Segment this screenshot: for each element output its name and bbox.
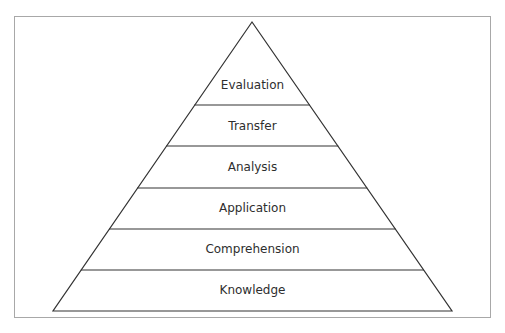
layer-label-evaluation: Evaluation bbox=[0, 78, 505, 92]
layer-label-application: Application bbox=[0, 201, 505, 215]
layer-label-transfer: Transfer bbox=[0, 119, 505, 133]
layer-label-analysis: Analysis bbox=[0, 160, 505, 174]
layer-label-knowledge: Knowledge bbox=[0, 283, 505, 297]
layer-label-comprehension: Comprehension bbox=[0, 242, 505, 256]
